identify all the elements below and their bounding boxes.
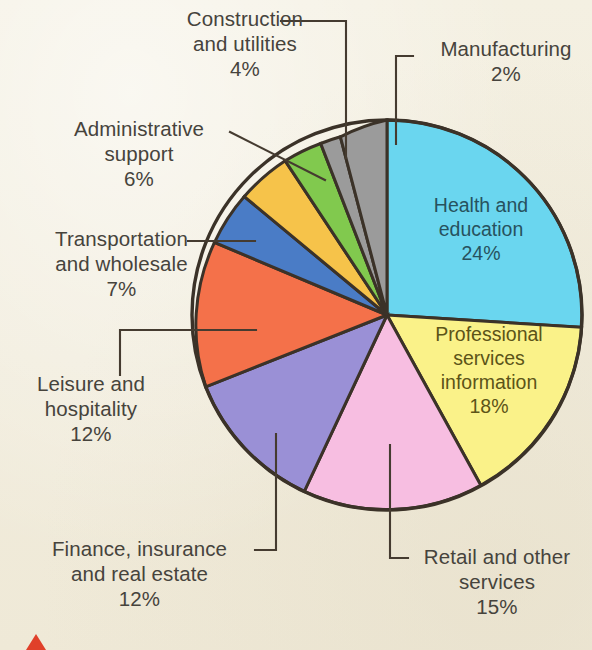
slice-label-health-value: 24%	[399, 241, 563, 265]
slice-label-finance-line1: Finance, insurance	[29, 536, 250, 561]
slice-label-transportation-line2: and wholesale	[8, 251, 235, 276]
slice-label-construction-line1: Construction	[147, 6, 343, 31]
slice-label-transportation-line1: Transportation	[8, 226, 235, 251]
slice-label-leisure-line1: Leisure and	[8, 371, 174, 396]
slice-label-manufacturing-line1: Manufacturing	[421, 36, 591, 61]
slice-label-transportation-value: 7%	[8, 276, 235, 301]
slice-label-administrative-line2: support	[46, 141, 232, 166]
slice-label-retail-value: 15%	[412, 594, 582, 619]
slice-label-professional-line1: Professional	[411, 322, 567, 346]
slice-label-construction-line2: and utilities	[147, 31, 343, 56]
slice-label-professional-line2: services	[411, 346, 567, 370]
slice-label-retail-line2: services	[412, 569, 582, 594]
slice-label-leisure: Leisure and hospitality 12%	[8, 371, 174, 446]
pie-chart-figure: Construction and utilities 4% Manufactur…	[0, 0, 592, 650]
slice-label-retail-line1: Retail and other	[412, 544, 582, 569]
slice-label-finance: Finance, insurance and real estate 12%	[29, 536, 250, 611]
slice-label-administrative-value: 6%	[46, 166, 232, 191]
slice-label-retail: Retail and other services 15%	[412, 544, 582, 619]
slice-label-leisure-value: 12%	[8, 421, 174, 446]
pie-slices	[192, 120, 582, 510]
slice-label-professional: Professional services information 18%	[411, 322, 567, 418]
slice-label-administrative-line1: Administrative	[46, 116, 232, 141]
slice-label-health-line1: Health and	[399, 193, 563, 217]
slice-label-construction: Construction and utilities 4%	[147, 6, 343, 81]
slice-label-construction-value: 4%	[147, 56, 343, 81]
slice-label-finance-value: 12%	[29, 586, 250, 611]
slice-label-health-line2: education	[399, 217, 563, 241]
slice-label-leisure-line2: hospitality	[8, 396, 174, 421]
slice-label-transportation: Transportation and wholesale 7%	[8, 226, 235, 301]
slice-label-administrative: Administrative support 6%	[46, 116, 232, 191]
slice-label-professional-line3: information	[411, 370, 567, 394]
slice-label-professional-value: 18%	[411, 394, 567, 418]
slice-label-finance-line2: and real estate	[29, 561, 250, 586]
slice-label-manufacturing: Manufacturing 2%	[421, 36, 591, 86]
slice-label-health: Health and education 24%	[399, 193, 563, 265]
slice-label-manufacturing-value: 2%	[421, 61, 591, 86]
page-marker-arrow	[26, 634, 46, 650]
